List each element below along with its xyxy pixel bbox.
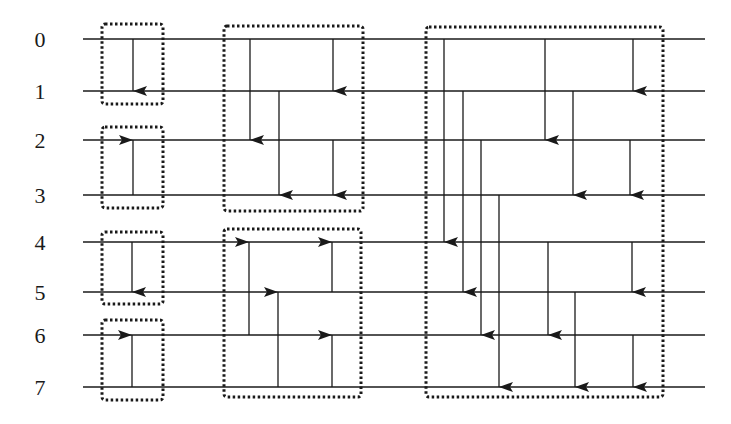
- wires: [83, 39, 705, 387]
- wire-label-5: 5: [35, 280, 46, 305]
- stage-boxes: [102, 24, 663, 400]
- stage2-box-bottom: [224, 229, 361, 397]
- stage2-box-top: [224, 26, 363, 211]
- wire-label-7: 7: [35, 375, 46, 400]
- wire-label-1: 1: [35, 79, 46, 104]
- wire-labels: 01234567: [35, 27, 46, 400]
- wire-label-6: 6: [35, 323, 46, 348]
- sorting-network-diagram: 01234567: [0, 0, 731, 424]
- wire-label-2: 2: [35, 128, 46, 153]
- wire-label-3: 3: [35, 183, 46, 208]
- wire-label-0: 0: [35, 27, 46, 52]
- wire-label-4: 4: [35, 230, 46, 255]
